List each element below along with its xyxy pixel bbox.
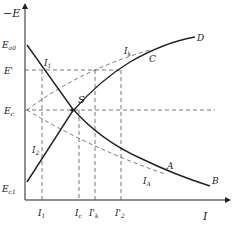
tick-Ic: Ic bbox=[74, 208, 83, 219]
label-IA: IA bbox=[142, 176, 152, 187]
label-S: S bbox=[78, 94, 85, 105]
evans-diagram: −E I Ea0 E' Ec Ec1 I1 Ic I'k I'2 I1 I2 I… bbox=[0, 0, 234, 226]
y-axis-label: −E bbox=[3, 7, 20, 20]
tick-I1: I1 bbox=[37, 208, 45, 219]
tick-Eprime: E' bbox=[3, 66, 13, 76]
label-I2: I2 bbox=[31, 145, 40, 156]
label-B: B bbox=[211, 176, 219, 186]
tick-Ec1: Ec1 bbox=[1, 184, 16, 195]
x-axis-label: I bbox=[202, 210, 208, 223]
tick-Iprimek: I'k bbox=[88, 208, 99, 219]
label-D: D bbox=[196, 33, 204, 43]
label-I1: I1 bbox=[43, 58, 51, 69]
dash-IA-extension bbox=[27, 110, 165, 174]
label-Ik: Ik bbox=[123, 46, 132, 57]
tick-Ea0: Ea0 bbox=[1, 40, 16, 51]
tick-Iprime2: I'2 bbox=[114, 208, 125, 219]
cathodic-curve-AB bbox=[27, 45, 210, 186]
diagram-canvas: −E I Ea0 E' Ec Ec1 I1 Ic I'k I'2 I1 I2 I… bbox=[0, 0, 234, 226]
label-C: C bbox=[149, 54, 156, 64]
label-A: A bbox=[166, 161, 174, 171]
intersection-point-S bbox=[71, 109, 74, 112]
tick-Ec: Ec bbox=[3, 106, 15, 117]
